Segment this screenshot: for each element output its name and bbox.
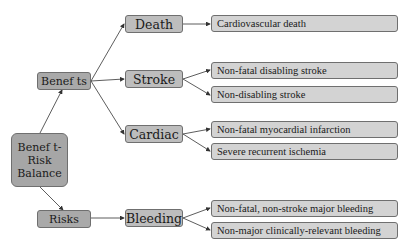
outcome-cardiovascular-death: Cardiovascular death (211, 15, 398, 32)
outcome-label: Non-fatal, non-stroke major bleeding (217, 203, 373, 214)
outcome-non-fatal-disabling-stroke: Non-fatal disabling stroke (211, 62, 398, 79)
stroke-node: Stroke (125, 70, 183, 88)
benefits-label: Benef ts (41, 75, 87, 88)
outcome-label: Non-fatal disabling stroke (217, 65, 327, 76)
benefit-risk-balance-node: Benef t- Risk Balance (11, 133, 68, 187)
risks-label: Risks (49, 213, 79, 226)
outcome-non-fatal-mi: Non-fatal myocardial infarction (211, 121, 398, 138)
root-label-line-2: Risk (27, 154, 51, 167)
bleeding-node: Bleeding (125, 209, 183, 227)
death-label: Death (135, 17, 173, 32)
outcome-label: Non-fatal myocardial infarction (217, 124, 351, 135)
outcome-non-disabling-stroke: Non-disabling stroke (211, 86, 398, 103)
outcome-label: Non-major clinically-relevant bleeding (217, 225, 381, 236)
stroke-label: Stroke (133, 72, 175, 87)
outcome-label: Severe recurrent ischemia (217, 146, 326, 157)
root-label-line-1: Benef t- (18, 141, 62, 154)
outcome-severe-recurrent-ischemia: Severe recurrent ischemia (211, 143, 398, 160)
cardiac-node: Cardiac (125, 125, 183, 143)
outcome-label: Non-disabling stroke (217, 89, 305, 100)
outcome-label: Cardiovascular death (217, 18, 306, 29)
outcome-clinically-relevant-bleeding: Non-major clinically-relevant bleeding (211, 222, 398, 239)
bleeding-label: Bleeding (126, 211, 182, 226)
cardiac-label: Cardiac (129, 127, 178, 142)
risks-node: Risks (37, 210, 91, 228)
death-node: Death (125, 15, 183, 33)
benefits-node: Benef ts (37, 72, 91, 90)
outcome-major-bleeding: Non-fatal, non-stroke major bleeding (211, 200, 398, 217)
root-label-line-3: Balance (17, 167, 61, 180)
